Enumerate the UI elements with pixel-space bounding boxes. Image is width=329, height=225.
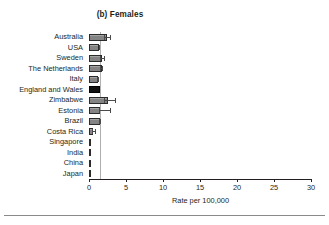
y-axis-label: Singapore <box>49 138 83 146</box>
x-axis-tick-label: 20 <box>225 183 249 192</box>
y-axis-label: England and Wales <box>19 86 83 94</box>
y-axis-label: Japan <box>63 170 83 178</box>
error-bar-cap-high <box>102 66 103 71</box>
x-axis-title: Rate per 100,000 <box>89 196 312 205</box>
error-bar-cap-high <box>99 45 100 50</box>
x-axis-tick <box>126 179 127 182</box>
error-bar-cap-low <box>99 108 100 113</box>
error-bar-cap-low <box>100 56 101 61</box>
x-axis-tick-label: 25 <box>262 183 286 192</box>
bar <box>89 170 91 177</box>
figure-panel: (b) Females AustraliaUSASwedenThe Nether… <box>0 0 329 225</box>
y-axis-label: Australia <box>54 33 83 41</box>
x-axis-tick-label: 5 <box>114 183 138 192</box>
y-axis-label: India <box>67 149 83 157</box>
x-axis-tick-label: 30 <box>299 183 323 192</box>
footer-divider <box>4 215 325 216</box>
error-bar <box>92 128 96 135</box>
x-axis-tick <box>274 179 275 182</box>
y-axis-category-labels: AustraliaUSASwedenThe NetherlandsItalyEn… <box>0 32 86 179</box>
error-bar <box>99 118 100 125</box>
error-bar-cap-high <box>110 35 111 40</box>
bar <box>89 149 91 156</box>
y-axis-label: Sweden <box>56 54 83 62</box>
x-axis-tick <box>200 179 201 182</box>
error-bar-cap-high <box>104 56 105 61</box>
error-bar <box>99 107 111 114</box>
error-bar <box>104 97 116 104</box>
error-bar <box>100 55 105 62</box>
error-bar-cap-high <box>98 77 99 82</box>
x-axis-tick-label: 0 <box>77 183 101 192</box>
error-bar <box>100 65 103 72</box>
page-title: (b) Females <box>0 10 240 19</box>
x-axis-tick-label: 15 <box>188 183 212 192</box>
x-axis-tick <box>311 179 312 182</box>
y-axis-label: Zimbabwe <box>49 96 83 104</box>
bar <box>89 139 91 146</box>
error-bar-cap-low <box>92 129 93 134</box>
error-bar <box>99 44 100 51</box>
y-axis-label: USA <box>68 44 83 52</box>
y-axis-label: China <box>64 159 83 167</box>
error-bar-cap-high <box>95 129 96 134</box>
x-axis-tick <box>163 179 164 182</box>
plot-area <box>89 32 311 179</box>
error-bar-cap-high <box>115 98 116 103</box>
error-bar-cap-low <box>104 98 105 103</box>
y-axis-label: Brazil <box>65 117 83 125</box>
error-bar-cap-low <box>104 35 105 40</box>
y-axis-label: The Netherlands <box>28 65 83 73</box>
x-axis-tick <box>89 179 90 182</box>
error-bar <box>97 76 98 83</box>
y-axis-label: Costa Rica <box>47 128 83 136</box>
y-axis-label: Estonia <box>58 107 83 115</box>
error-bar-cap-low <box>100 66 101 71</box>
error-bar-cap-high <box>100 119 101 124</box>
x-axis-tick-label: 10 <box>151 183 175 192</box>
bar <box>89 86 100 93</box>
bar <box>89 160 91 167</box>
error-bar <box>104 34 111 41</box>
error-bar-cap-high <box>110 108 111 113</box>
x-axis-tick <box>237 179 238 182</box>
y-axis-label: Italy <box>69 75 83 83</box>
